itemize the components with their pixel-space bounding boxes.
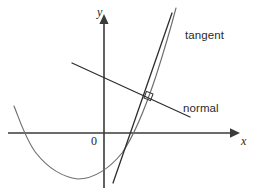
y-axis-label: y (96, 5, 103, 19)
x-axis-label: x (240, 134, 247, 148)
y-axis-group (99, 14, 108, 188)
x-axis-arrowhead (230, 128, 240, 138)
figure-canvas: y x 0 tangent normal (0, 0, 256, 188)
normal-label: normal (183, 102, 219, 114)
tangent-label: tangent (185, 29, 225, 41)
x-axis-group (8, 128, 240, 138)
origin-label: 0 (91, 134, 97, 148)
figure-root: y x 0 tangent normal (0, 0, 256, 188)
tangent-line (113, 13, 172, 183)
normal-line (72, 63, 190, 117)
